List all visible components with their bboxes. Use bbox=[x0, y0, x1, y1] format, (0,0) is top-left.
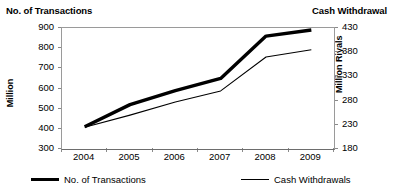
right-axis-heading: Cash Withdrawal bbox=[312, 5, 387, 16]
series-line-transactions bbox=[85, 30, 312, 127]
left-tick-label: 800 bbox=[20, 42, 54, 52]
legend-swatch-thick-line bbox=[31, 178, 59, 181]
plot-area bbox=[61, 27, 335, 150]
chart-legend: No. of Transactions Cash Withdrawals bbox=[0, 171, 393, 192]
right-tick-label: 230 bbox=[342, 119, 376, 129]
legend-label: Cash Withdrawals bbox=[274, 174, 351, 185]
right-tick-label: 330 bbox=[342, 70, 376, 80]
right-axis-title: Million Riyals bbox=[334, 35, 344, 93]
left-tick-label: 500 bbox=[20, 103, 54, 113]
right-tick-label: 430 bbox=[342, 22, 376, 32]
legend-swatch-thin-line bbox=[241, 179, 269, 180]
left-tick-label: 900 bbox=[20, 22, 54, 32]
series-line-cash-withdrawals bbox=[85, 50, 312, 127]
right-tick-label: 380 bbox=[342, 46, 376, 56]
right-tick-label: 280 bbox=[342, 95, 376, 105]
legend-item-transactions: No. of Transactions bbox=[31, 174, 146, 185]
x-tick-label: 2008 bbox=[242, 152, 288, 162]
left-tick-label: 600 bbox=[20, 83, 54, 93]
x-tick-label: 2006 bbox=[151, 152, 197, 162]
left-tick-label: 700 bbox=[20, 62, 54, 72]
series-lines bbox=[62, 28, 334, 149]
legend-label: No. of Transactions bbox=[64, 174, 146, 185]
legend-item-cash-withdrawals: Cash Withdrawals bbox=[241, 174, 351, 185]
left-axis-title: Million bbox=[5, 79, 15, 108]
x-tick-label: 2005 bbox=[106, 152, 152, 162]
left-tick-label: 300 bbox=[20, 143, 54, 153]
x-tick-label: 2004 bbox=[61, 152, 107, 162]
right-tick-label: 180 bbox=[342, 143, 376, 153]
chart-container: No. of Transactions Cash Withdrawal Mill… bbox=[0, 0, 393, 192]
left-tick-label: 400 bbox=[20, 123, 54, 133]
left-axis-heading: No. of Transactions bbox=[6, 5, 92, 16]
x-tick-label: 2009 bbox=[287, 152, 333, 162]
x-tick-label: 2007 bbox=[197, 152, 243, 162]
